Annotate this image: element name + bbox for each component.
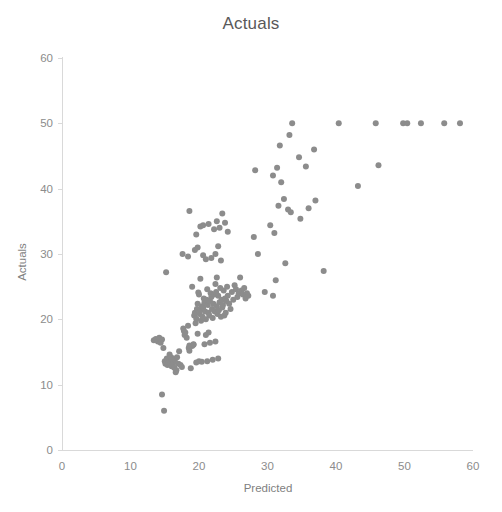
x-tick-label: 50: [398, 460, 411, 472]
data-point: [277, 143, 283, 149]
data-point: [252, 167, 258, 173]
data-point: [159, 337, 165, 343]
data-point: [223, 310, 229, 316]
data-point: [212, 251, 218, 257]
y-axis-title: Actuals: [16, 243, 28, 281]
data-point: [211, 226, 217, 232]
data-point: [457, 120, 463, 126]
data-point: [289, 120, 295, 126]
data-point: [185, 254, 191, 260]
data-point: [404, 120, 410, 126]
data-point: [270, 173, 276, 179]
data-point: [273, 277, 279, 283]
y-tick-label: 20: [40, 313, 53, 325]
data-point: [373, 120, 379, 126]
data-point: [193, 231, 199, 237]
data-point: [182, 329, 188, 335]
data-point: [206, 329, 212, 335]
data-point: [303, 163, 309, 169]
data-point: [262, 289, 268, 295]
data-point: [270, 293, 276, 299]
y-tick-label: 60: [40, 52, 53, 64]
plot-area: 0102030405060 0102030405060 Actuals Pred…: [0, 0, 502, 512]
data-point: [201, 341, 207, 347]
data-point: [215, 243, 221, 249]
data-point: [199, 359, 205, 365]
data-point: [189, 284, 195, 290]
data-point: [286, 132, 292, 138]
data-point: [297, 216, 303, 222]
data-point: [185, 323, 191, 329]
data-point: [275, 203, 281, 209]
data-point: [184, 335, 190, 341]
data-point: [418, 120, 424, 126]
data-point: [176, 348, 182, 354]
data-point: [267, 222, 273, 228]
y-tick-label: 10: [40, 379, 53, 391]
data-point: [251, 234, 257, 240]
data-point: [173, 367, 179, 373]
data-point: [191, 342, 197, 348]
y-tick-label: 30: [40, 248, 53, 260]
data-points-layer: [151, 120, 463, 413]
data-point: [215, 356, 221, 362]
data-point: [207, 340, 213, 346]
data-point: [225, 229, 231, 235]
x-tick-label: 20: [193, 460, 206, 472]
data-point: [306, 205, 312, 211]
data-point: [161, 408, 167, 414]
x-tick-label: 40: [330, 460, 343, 472]
data-point: [196, 292, 202, 298]
x-tick-label: 30: [261, 460, 274, 472]
data-point: [160, 345, 166, 351]
data-point: [241, 285, 247, 291]
data-point: [186, 208, 192, 214]
data-point: [274, 165, 280, 171]
data-point: [217, 225, 223, 231]
data-point: [163, 269, 169, 275]
data-point: [228, 306, 234, 312]
data-point: [203, 256, 209, 262]
data-point: [296, 154, 302, 160]
data-point: [278, 179, 284, 185]
y-axis: 0102030405060: [40, 52, 62, 456]
data-point: [197, 276, 203, 282]
data-point: [255, 251, 261, 257]
data-point: [245, 293, 251, 299]
x-axis: 0102030405060: [59, 451, 480, 473]
data-point: [212, 281, 218, 287]
data-point: [218, 258, 224, 264]
data-point: [282, 260, 288, 266]
data-point: [375, 162, 381, 168]
x-tick-label: 10: [124, 460, 137, 472]
data-point: [159, 391, 165, 397]
data-point: [281, 196, 287, 202]
data-point: [288, 209, 294, 215]
data-point: [355, 183, 361, 189]
data-point: [214, 218, 220, 224]
data-point: [219, 210, 225, 216]
data-point: [311, 146, 317, 152]
x-tick-label: 60: [467, 460, 480, 472]
data-point: [321, 268, 327, 274]
data-point: [336, 120, 342, 126]
data-point: [271, 230, 277, 236]
data-point: [174, 354, 180, 360]
data-point: [206, 221, 212, 227]
data-point: [312, 197, 318, 203]
data-point: [179, 364, 185, 370]
x-axis-title: Predicted: [244, 482, 293, 494]
data-point: [180, 251, 186, 257]
data-point: [200, 222, 206, 228]
y-tick-label: 50: [40, 117, 53, 129]
data-point: [222, 220, 228, 226]
data-point: [210, 357, 216, 363]
data-point: [195, 244, 201, 250]
data-point: [214, 275, 220, 281]
y-tick-label: 40: [40, 183, 53, 195]
y-tick-label: 0: [47, 444, 53, 456]
data-point: [195, 331, 201, 337]
data-point: [204, 358, 210, 364]
data-point: [212, 339, 218, 345]
data-point: [237, 275, 243, 281]
